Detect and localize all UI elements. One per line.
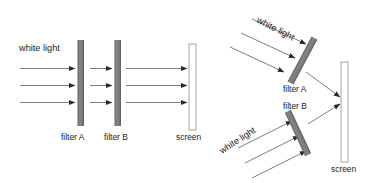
ray-transmitted-b	[308, 104, 340, 124]
right-filter-a-label: filter A	[283, 84, 307, 94]
left-filter-a-label: filter A	[61, 132, 85, 142]
ray-upper-3	[230, 47, 284, 72]
left-filter-b-label: filter B	[104, 132, 128, 142]
right-filter-b-bar	[285, 110, 311, 156]
right-lower-transmitted	[308, 104, 340, 124]
right-lower-white-light-label: white light	[217, 125, 258, 156]
screen-right	[341, 62, 348, 162]
screen-left	[189, 44, 196, 130]
left-middle-rays	[90, 69, 112, 103]
right-screen-label: screen	[331, 164, 356, 174]
right-diagram: white light white light filter A filter …	[217, 14, 357, 178]
right-filter-b-label: filter B	[283, 101, 307, 111]
left-incoming-rays	[20, 69, 75, 103]
left-outgoing-rays	[126, 69, 187, 103]
ray-transmitted-a	[306, 72, 340, 97]
filter-a-bar	[78, 40, 85, 126]
right-upper-white-light-label: white light	[254, 14, 296, 42]
left-white-light-label: white light	[18, 43, 60, 53]
right-upper-transmitted	[306, 72, 340, 97]
left-diagram: white light filter A filter B screen	[18, 40, 201, 142]
optics-figure: white light filter A filter B screen	[0, 0, 379, 183]
filter-b-bar	[115, 40, 122, 126]
left-screen-label: screen	[176, 132, 201, 142]
